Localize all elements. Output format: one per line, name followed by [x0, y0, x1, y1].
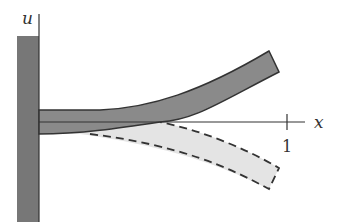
x-axis-label: x: [314, 112, 324, 132]
cantilever-diagram: u x 1: [0, 0, 340, 222]
tick-label-1: 1: [282, 137, 292, 156]
u-axis-label: u: [22, 8, 33, 28]
wall: [17, 36, 39, 222]
